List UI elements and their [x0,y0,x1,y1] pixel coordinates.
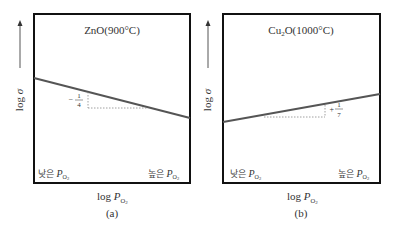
svg-text:−: − [68,95,73,104]
panel-caption: (a) [106,207,119,220]
svg-text:7: 7 [337,111,341,119]
panel-b: log σ Cu2O(1000°C) + 1 7 낮은 PO2 높은 PO2 l… [201,14,380,220]
svg-text:+: + [329,105,334,114]
arrow-head-icon [18,20,23,26]
conductivity-line [223,94,380,122]
y-axis-label: log σ [201,88,213,111]
low-po2-label: 낮은 PO2 [38,168,69,181]
x-axis-label: log PO2 [97,190,128,205]
conductivity-diagram: log σ ZnO(900°C) − 1 4 낮은 PO2 높은 PO2 log… [0,0,395,232]
svg-text:1: 1 [77,92,81,100]
panel-title: Cu2O(1000°C) [268,24,334,38]
panel-a: log σ ZnO(900°C) − 1 4 낮은 PO2 높은 PO2 log… [13,14,190,220]
low-po2-label: 낮은 PO2 [230,168,261,181]
slope-label: + 1 7 [329,101,343,119]
svg-text:4: 4 [77,101,81,109]
arrow-head-icon [206,20,211,26]
high-po2-label: 높은 PO2 [338,168,369,181]
y-axis-label: log σ [13,88,25,111]
panel-caption: (b) [295,207,308,220]
high-po2-label: 높은 PO2 [148,168,179,181]
panel-title: ZnO(900°C) [84,24,140,37]
x-axis-label: log PO2 [287,190,318,205]
svg-text:1: 1 [337,101,341,109]
conductivity-line [34,78,190,118]
slope-label: − 1 4 [68,92,83,109]
